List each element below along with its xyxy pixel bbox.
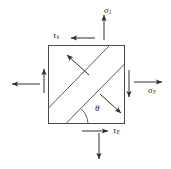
sigma-vertical-subscript: 1: [109, 9, 112, 15]
inclined-plane-lower: [66, 64, 125, 124]
label-tau-top: τh: [53, 31, 59, 41]
sigma-horizontal-symbol: σ: [148, 85, 152, 95]
tau-top-subscript: h: [57, 34, 60, 40]
sigma-horizontal-subscript: 3: [153, 89, 156, 95]
plane-normal-lower-arrow: [100, 94, 121, 113]
label-tau-bottom: τE: [113, 126, 120, 136]
tau-bottom-subscript: E: [117, 129, 120, 135]
label-theta: θ: [95, 104, 99, 113]
theta-symbol: θ: [95, 103, 99, 113]
label-sigma-vertical: σ1: [104, 6, 112, 16]
theta-angle-arc: [82, 109, 89, 124]
inclined-plane-upper: [49, 46, 110, 109]
label-sigma-horizontal: σ3: [148, 86, 156, 96]
sigma-vertical-symbol: σ: [104, 5, 108, 15]
element-square: [49, 46, 125, 124]
stress-element-diagram: σ1 σ3 τh τE θ: [0, 0, 171, 169]
tau-bottom-symbol: τ: [113, 125, 116, 135]
diagram-canvas: [0, 0, 171, 169]
tau-top-symbol: τ: [53, 30, 56, 40]
plane-normal-upper-arrow: [67, 55, 89, 75]
